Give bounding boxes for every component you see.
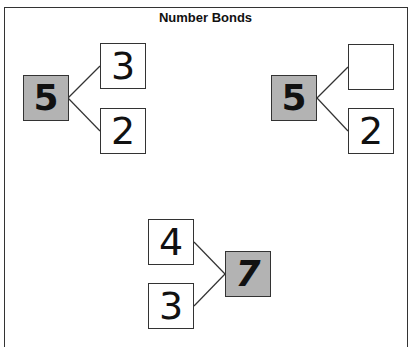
bond-3-part-bottom: 3 <box>148 283 194 329</box>
bond-2-whole: 5 <box>271 75 317 121</box>
bond-3-part-top: 4 <box>148 219 194 265</box>
bond-1-whole: 5 <box>23 75 69 121</box>
bond-3-whole: 7 <box>225 251 271 297</box>
bond-2-part-bottom: 2 <box>348 108 394 154</box>
bond-2-part-top-blank[interactable] <box>348 44 394 90</box>
bond-1-part-bottom: 2 <box>100 108 146 154</box>
bond-1-part-top: 3 <box>100 43 146 89</box>
